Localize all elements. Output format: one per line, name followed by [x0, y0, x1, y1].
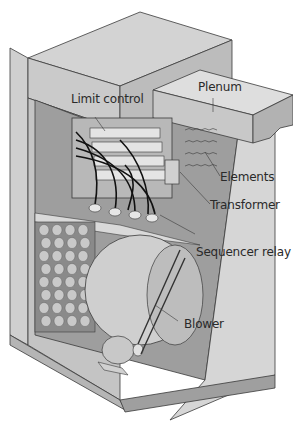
label-plenum: Plenum — [198, 80, 242, 94]
filter-hole — [65, 225, 75, 236]
filter-hole — [54, 264, 64, 275]
label-sequencer-relay: Sequencer relay — [196, 245, 291, 259]
filter-hole — [39, 303, 49, 314]
label-transformer: Transformer — [210, 198, 280, 212]
filter-hole — [67, 264, 77, 275]
filter-hole — [65, 303, 75, 314]
filter-hole — [41, 316, 51, 327]
filter-hole — [39, 251, 49, 262]
label-elements: Elements — [220, 170, 274, 184]
left-side-panel — [10, 48, 28, 345]
filter-hole — [41, 264, 51, 275]
wire-nut — [89, 204, 101, 212]
filter-hole — [78, 225, 88, 236]
filter-hole — [78, 251, 88, 262]
wire-nut — [146, 214, 158, 222]
filter-hole — [54, 316, 64, 327]
filter-hole — [41, 238, 51, 249]
filter-hole — [80, 316, 90, 327]
filter-hole — [39, 225, 49, 236]
filter-hole — [52, 251, 62, 262]
filter-hole — [67, 316, 77, 327]
transformer-box — [165, 160, 179, 184]
limit-control-bar-1 — [90, 128, 160, 138]
filter-hole — [67, 290, 77, 301]
filter-hole — [65, 277, 75, 288]
blower-motor — [102, 336, 134, 364]
filter-hole — [52, 303, 62, 314]
furnace-diagram — [0, 0, 293, 425]
wire-nut — [109, 208, 121, 216]
filter-hole — [67, 238, 77, 249]
filter-hole — [54, 290, 64, 301]
filter-hole — [52, 225, 62, 236]
filter-hole — [80, 238, 90, 249]
label-blower: Blower — [184, 317, 224, 331]
filter-hole — [41, 290, 51, 301]
wire-nut — [129, 211, 141, 219]
filter-hole — [52, 277, 62, 288]
label-limit-control: Limit control — [71, 92, 144, 106]
filter-hole — [54, 238, 64, 249]
filter-hole — [65, 251, 75, 262]
filter-hole — [39, 277, 49, 288]
